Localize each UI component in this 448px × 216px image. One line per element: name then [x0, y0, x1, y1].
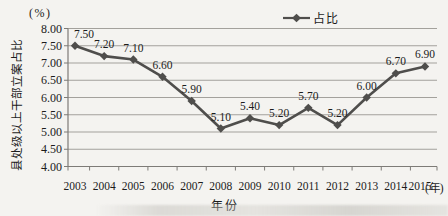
- y-axis-title: 县处级以上干部立案占比: [10, 41, 25, 171]
- x-axis-category-label: 2014: [384, 180, 407, 192]
- x-axis-category-label: 2004: [93, 180, 116, 192]
- scan-artifact-band: [95, 205, 448, 216]
- x-axis-category-label: 2006: [151, 180, 174, 192]
- y-axis-tick-label: 7.50: [41, 39, 62, 53]
- x-axis-category-label: 2013: [355, 180, 378, 192]
- data-point-marker: [100, 52, 108, 60]
- scanned-line-chart-page: 8.007.507.006.506.005.505.004.504.002003…: [0, 0, 448, 216]
- y-axis-tick-label: 4.50: [41, 142, 62, 156]
- data-point-marker: [71, 42, 79, 50]
- data-point-marker: [246, 114, 254, 122]
- data-point-label: 5.20: [269, 107, 289, 119]
- y-axis-tick-label: 5.50: [41, 108, 62, 122]
- x-axis-unit-label: (年): [425, 179, 444, 195]
- legend-line-marker-icon: [283, 13, 310, 23]
- x-axis-category-label: 2011: [297, 180, 320, 192]
- data-point-label: 5.90: [182, 83, 202, 95]
- x-axis-category-label: 2007: [180, 180, 203, 192]
- y-axis-tick-label: 8.00: [41, 22, 62, 36]
- data-point-label: 6.60: [152, 59, 172, 71]
- data-point-label: 5.10: [211, 111, 231, 123]
- y-axis-tick-label: 6.50: [41, 73, 62, 87]
- y-axis-tick-label: 6.00: [41, 91, 62, 105]
- data-point-label: 5.70: [298, 90, 318, 102]
- data-point-label: 5.20: [327, 107, 347, 119]
- x-axis-category-label: 2009: [239, 180, 262, 192]
- x-axis-category-label: 2010: [268, 180, 291, 192]
- y-axis-unit-label: (%): [29, 6, 52, 21]
- data-point-label: 7.50: [74, 28, 94, 40]
- y-axis-tick-label: 5.00: [41, 125, 62, 139]
- chart-legend: 占比: [283, 9, 339, 27]
- data-point-label: 6.90: [415, 48, 435, 60]
- x-axis-category-label: 2008: [209, 180, 232, 192]
- data-point-marker: [421, 62, 429, 70]
- chart-plot-area: 8.007.507.006.506.005.505.004.504.002003…: [0, 0, 448, 216]
- y-axis-tick-label: 7.00: [41, 56, 62, 70]
- data-point-label: 7.20: [94, 38, 114, 50]
- data-point-label: 6.70: [386, 55, 406, 67]
- x-axis-category-label: 2012: [326, 180, 349, 192]
- x-axis-category-label: 2005: [122, 180, 145, 192]
- legend-series-label: 占比: [313, 9, 339, 27]
- data-point-label: 5.40: [240, 100, 260, 112]
- data-point-label: 7.10: [123, 42, 143, 54]
- x-axis-category-label: 2003: [64, 180, 87, 192]
- data-point-label: 6.00: [357, 80, 377, 92]
- y-axis-tick-label: 4.00: [41, 160, 62, 174]
